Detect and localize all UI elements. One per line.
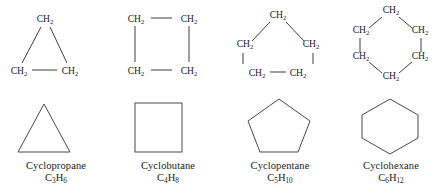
ch2-label-lower-right: CH2 — [290, 67, 307, 79]
square-shape — [135, 103, 182, 152]
ch2-label-bottom-left: CH2 — [128, 65, 145, 77]
caption-cyclohexane: Cyclohexane C6H12 — [335, 160, 447, 185]
bond-top-to-upper-left — [369, 17, 382, 28]
bond-apex-to-right — [50, 27, 67, 63]
ch2-label-lower-right: CH2 — [412, 50, 429, 62]
ch2-label-lower-left: CH2 — [353, 50, 370, 62]
bond-top-to-upper-left — [252, 22, 270, 41]
expanded-structure-cyclopentane: CH2 CH2 CH2 CH2 CH2 — [224, 0, 336, 92]
compound-formula: C5H10 — [224, 172, 336, 184]
bond-lower-left-to-bottom — [369, 62, 382, 73]
caption-cyclopentane: Cyclopentane C5H10 — [224, 160, 336, 185]
compound-name: Cyclopropane — [0, 160, 112, 172]
bond-lower-right-to-bottom — [399, 62, 412, 73]
pentagon-shape — [248, 99, 310, 152]
ch2-label-upper-left: CH2 — [353, 24, 370, 36]
ch2-label-upper-right: CH2 — [412, 24, 429, 36]
expanded-structure-cyclopropane: CH2 CH2 CH2 — [0, 0, 112, 92]
bond-top-to-upper-right — [399, 17, 412, 28]
expanded-structure-cyclobutane: CH2 CH2 CH2 CH2 — [112, 0, 224, 92]
compound-name: Cyclopentane — [224, 160, 336, 172]
ch2-label-top: CH2 — [383, 4, 400, 16]
compound-column-cyclopropane: CH2 CH2 CH2 Cyclopropane C3H6 — [0, 0, 112, 196]
expanded-structure-cyclohexane: CH2 CH2 CH2 CH2 CH2 CH2 — [335, 0, 447, 92]
triangle-shape — [18, 104, 70, 152]
ch2-label-bottom: CH2 — [383, 70, 400, 82]
ch2-label-bottom-right: CH2 — [181, 65, 198, 77]
cycloalkane-figure: CH2 CH2 CH2 Cyclopropane C3H6 CH2 CH2 — [0, 0, 447, 196]
skeletal-structure-cyclopropane — [0, 92, 112, 160]
skeletal-structure-cyclobutane — [112, 92, 224, 160]
ch2-label-upper-left: CH2 — [237, 38, 254, 50]
ch2-label-top-left: CH2 — [128, 13, 145, 25]
ch2-label-top-right: CH2 — [181, 13, 198, 25]
compound-formula: C6H12 — [335, 172, 447, 184]
compound-formula: C4H8 — [112, 172, 224, 184]
compound-column-cyclobutane: CH2 CH2 CH2 CH2 Cyclobutane C4H8 — [112, 0, 224, 196]
caption-cyclopropane: Cyclopropane C3H6 — [0, 160, 112, 185]
bond-apex-to-left — [22, 27, 41, 63]
ch2-label-upper-right: CH2 — [303, 38, 320, 50]
compound-column-cyclohexane: CH2 CH2 CH2 CH2 CH2 CH2 Cyclohexane C6H1… — [335, 0, 447, 196]
hexagon-shape — [362, 99, 418, 154]
compound-column-cyclopentane: CH2 CH2 CH2 CH2 CH2 Cyclopentane C5H10 — [224, 0, 336, 196]
compound-name: Cyclobutane — [112, 160, 224, 172]
skeletal-structure-cyclopentane — [224, 92, 336, 160]
skeletal-structure-cyclohexane — [335, 92, 447, 160]
ch2-label-top: CH2 — [270, 9, 287, 21]
ch2-label-bottom-right: CH2 — [62, 65, 79, 77]
ch2-label-lower-left: CH2 — [249, 67, 266, 79]
caption-cyclobutane: Cyclobutane C4H8 — [112, 160, 224, 185]
ch2-label-bottom-left: CH2 — [11, 65, 28, 77]
compound-formula: C3H6 — [0, 172, 112, 184]
bond-top-to-upper-right — [286, 22, 304, 41]
ch2-label-top: CH2 — [37, 13, 54, 25]
compound-name: Cyclohexane — [335, 160, 447, 172]
